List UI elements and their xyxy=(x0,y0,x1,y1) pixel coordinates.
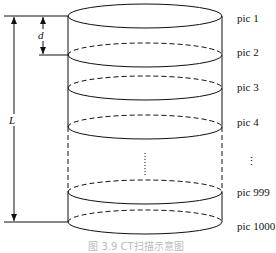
slice-ellipse-pic4-back xyxy=(68,115,222,127)
arrow-d-up-icon xyxy=(40,17,46,24)
figure-caption: 图 3.9 CT扫描示意图 xyxy=(0,238,272,253)
dim-L-label: L xyxy=(9,114,15,126)
slice-ellipse-pic999-back xyxy=(68,180,222,192)
arrow-L-up-icon xyxy=(11,17,17,24)
slice-ellipse-pic2-front xyxy=(68,55,222,67)
dim-d-label: d xyxy=(38,29,44,41)
slice-label-pic3: pic 3 xyxy=(237,81,259,93)
arrow-d-down-icon xyxy=(40,47,46,54)
arrow-L-down-icon xyxy=(11,214,17,221)
slice-label-pic1000: pic 1000 xyxy=(237,220,275,232)
slice-ellipse-pic1000-front xyxy=(68,222,222,234)
slice-ellipse-pic3-back xyxy=(68,76,222,88)
slice-label-pic2: pic 2 xyxy=(237,46,259,58)
slice-ellipse-pic1000-back xyxy=(68,210,222,222)
slice-label-pic4: pic 4 xyxy=(237,116,259,128)
slice-label-pic1: pic 1 xyxy=(237,12,259,24)
slice-ellipse-pic3-front xyxy=(68,88,222,100)
slice-ellipse-pic4-front xyxy=(68,127,222,139)
slice-label-pic999: pic 999 xyxy=(237,186,270,198)
slice-ellipse-pic999-front xyxy=(68,192,222,204)
slice-label-ellipsis: ⋮ xyxy=(246,155,257,168)
slice-ellipse-pic1 xyxy=(68,4,222,28)
slice-ellipse-pic2-back xyxy=(68,43,222,55)
